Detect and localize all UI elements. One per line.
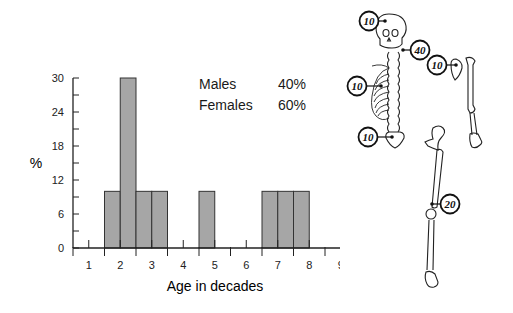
- age-histogram: 0612182430 123456789 % Age in decades: [0, 0, 340, 313]
- ribcage-icon: [372, 65, 390, 120]
- histogram-bar: [152, 191, 168, 248]
- svg-text:10: 10: [432, 59, 444, 71]
- site-callouts: 104010101020: [348, 12, 460, 214]
- y-tick-label: 6: [58, 208, 64, 220]
- x-tick-label: 2: [117, 259, 123, 271]
- males-value: 40%: [278, 76, 306, 92]
- x-axis-label: Age in decades: [167, 278, 264, 294]
- callout-humerus-shoulder: 10: [428, 56, 458, 75]
- y-tick-label: 24: [52, 106, 64, 118]
- y-axis-label: %: [30, 155, 42, 171]
- skull-icon: [376, 14, 406, 48]
- y-tick-label: 12: [52, 174, 64, 186]
- histogram-bar: [294, 191, 310, 248]
- callout-cervical-spine: 40: [401, 41, 429, 60]
- svg-text:20: 20: [444, 198, 457, 210]
- x-tick-label: 8: [306, 259, 312, 271]
- histogram-bar: [120, 78, 136, 248]
- histogram-bar: [199, 191, 215, 248]
- sacrum-icon: [386, 132, 404, 148]
- histogram-bar: [136, 191, 152, 248]
- callout-ribs: 10: [348, 77, 383, 96]
- y-tick-label: 18: [52, 140, 64, 152]
- y-tick-label: 0: [58, 242, 64, 254]
- x-tick-label: 4: [180, 259, 186, 271]
- spine-icon: [388, 52, 400, 132]
- x-tick-label: 6: [243, 259, 249, 271]
- skeleton-illustration: 104010101020: [340, 0, 513, 313]
- svg-text:10: 10: [364, 15, 376, 27]
- histogram-bar: [262, 191, 278, 248]
- x-tick-label: 5: [212, 259, 218, 271]
- y-tick-label: 30: [52, 72, 64, 84]
- y-axis-ticks: 0612182430: [52, 72, 79, 254]
- callout-skull: 10: [360, 12, 387, 31]
- x-tick-label: 1: [86, 259, 92, 271]
- males-label: Males: [199, 76, 236, 92]
- svg-text:10: 10: [352, 80, 364, 92]
- svg-text:10: 10: [363, 131, 375, 143]
- histogram-bar: [278, 191, 294, 248]
- females-label: Females: [199, 97, 253, 113]
- x-tick-label: 7: [275, 259, 281, 271]
- histogram-bar: [105, 191, 121, 248]
- x-tick-label: 3: [149, 259, 155, 271]
- females-value: 60%: [278, 97, 306, 113]
- svg-text:40: 40: [414, 44, 427, 56]
- arm-icon: [451, 57, 482, 147]
